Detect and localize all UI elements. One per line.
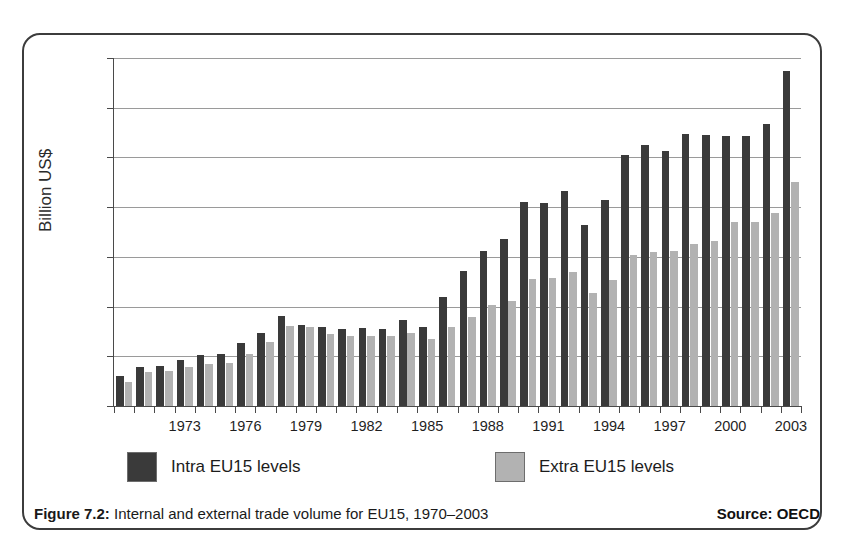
x-axis-tick-mark <box>740 406 741 413</box>
bar-extra <box>589 293 597 406</box>
x-axis-tick-mark <box>377 406 378 413</box>
bar-intra <box>439 297 447 406</box>
x-axis-tick-mark <box>660 406 661 413</box>
x-axis-tick-mark <box>498 406 499 413</box>
bar-group <box>154 58 174 406</box>
x-axis-tick-mark <box>417 406 418 413</box>
x-axis-tick-label: 2003 <box>775 418 807 434</box>
bar-group <box>660 58 680 406</box>
legend-label-extra: Extra EU15 levels <box>539 457 674 477</box>
bar-intra <box>783 71 791 406</box>
x-axis-tick-mark <box>761 406 762 413</box>
bar-intra <box>177 360 185 406</box>
y-axis-tick-mark <box>107 58 114 59</box>
bar-intra <box>419 327 427 406</box>
bar-extra <box>731 222 739 406</box>
bar-intra <box>742 136 750 406</box>
x-axis-tick-label: 1976 <box>229 418 261 434</box>
bar-extra <box>327 334 335 406</box>
bar-intra <box>561 191 569 406</box>
bar-group <box>680 58 700 406</box>
x-axis-tick-mark <box>175 406 176 413</box>
x-axis-tick-mark <box>781 406 782 413</box>
bar-group <box>579 58 599 406</box>
bar-intra <box>540 203 548 406</box>
bar-intra <box>621 155 629 406</box>
bar-extra <box>549 278 557 406</box>
bar-extra <box>165 371 173 406</box>
bar-group <box>417 58 437 406</box>
bar-extra <box>428 339 436 406</box>
legend-item-intra: Intra EU15 levels <box>127 452 300 482</box>
x-axis-tick-mark <box>559 406 560 413</box>
y-axis-tick-mark <box>107 207 114 208</box>
bar-extra <box>508 301 516 406</box>
bar-group <box>316 58 336 406</box>
bar-series-container <box>114 58 801 406</box>
x-axis-tick-label: 1988 <box>472 418 504 434</box>
bar-intra <box>702 135 710 406</box>
x-axis-tick-mark <box>700 406 701 413</box>
bar-intra <box>641 145 649 406</box>
y-axis-tick-mark <box>107 257 114 258</box>
x-axis-tick-mark <box>599 406 600 413</box>
x-axis-tick-label: 1997 <box>654 418 686 434</box>
x-axis-tick-label: 1985 <box>411 418 443 434</box>
bar-extra <box>650 252 658 406</box>
bar-group <box>134 58 154 406</box>
bar-extra <box>266 342 274 406</box>
legend-label-intra: Intra EU15 levels <box>171 457 300 477</box>
bar-extra <box>569 272 577 406</box>
x-axis-tick-label: 1991 <box>532 418 564 434</box>
bar-group <box>336 58 356 406</box>
bar-group <box>518 58 538 406</box>
bar-group <box>437 58 457 406</box>
bar-extra <box>529 279 537 406</box>
bar-extra <box>367 336 375 406</box>
bar-extra <box>347 336 355 406</box>
y-axis-tick-mark <box>107 108 114 109</box>
bar-group <box>114 58 134 406</box>
bar-intra <box>379 329 387 406</box>
bar-intra <box>156 366 164 406</box>
x-axis-tick-label: 1982 <box>350 418 382 434</box>
bar-group <box>619 58 639 406</box>
bar-intra <box>237 343 245 406</box>
bar-group <box>700 58 720 406</box>
bar-group <box>599 58 619 406</box>
x-axis-tick-label: 1973 <box>169 418 201 434</box>
bar-intra <box>399 320 407 406</box>
bar-extra <box>711 241 719 406</box>
bar-extra <box>145 372 153 406</box>
bar-group <box>215 58 235 406</box>
bar-intra <box>500 239 508 406</box>
bar-extra <box>387 336 395 406</box>
x-axis-tick-label: 1994 <box>593 418 625 434</box>
bar-group <box>478 58 498 406</box>
bar-intra <box>318 327 326 406</box>
x-axis-tick-mark <box>316 406 317 413</box>
bar-extra <box>690 244 698 406</box>
x-axis-tick-mark <box>720 406 721 413</box>
bar-intra <box>460 271 468 406</box>
y-axis-title: Billion US$ <box>36 149 56 232</box>
legend-swatch-extra-icon <box>495 452 525 482</box>
x-axis-tick-mark <box>639 406 640 413</box>
bar-intra <box>662 151 670 406</box>
bar-extra <box>630 255 638 406</box>
x-axis-tick-mark <box>801 406 802 413</box>
bar-extra <box>791 182 799 406</box>
bar-group <box>781 58 801 406</box>
bar-intra <box>480 251 488 406</box>
bar-extra <box>771 213 779 406</box>
bar-intra <box>278 316 286 406</box>
bar-intra <box>520 202 528 406</box>
bar-extra <box>125 382 133 406</box>
x-axis-tick-mark <box>619 406 620 413</box>
bar-group <box>397 58 417 406</box>
bar-intra <box>682 134 690 406</box>
bar-intra <box>338 329 346 406</box>
x-axis-tick-mark <box>215 406 216 413</box>
bar-group <box>498 58 518 406</box>
bar-intra <box>257 333 265 406</box>
